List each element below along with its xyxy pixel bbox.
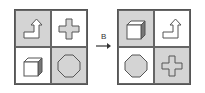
octagon-icon bbox=[123, 53, 149, 79]
source-grid bbox=[14, 9, 88, 85]
right-arrow-icon bbox=[94, 34, 114, 54]
result-cell-bottom-left bbox=[118, 47, 154, 84]
cube-icon bbox=[123, 16, 149, 42]
result-cell-bottom-right bbox=[154, 47, 190, 84]
source-cell-top-left bbox=[15, 10, 51, 47]
cube-icon bbox=[20, 53, 46, 79]
source-cell-top-right bbox=[51, 10, 87, 47]
result-grid bbox=[117, 9, 191, 85]
result-cell-top-right bbox=[154, 10, 190, 47]
source-cell-bottom-right bbox=[51, 47, 87, 84]
result-cell-top-left bbox=[118, 10, 154, 47]
bent-arrow-icon bbox=[159, 16, 185, 42]
cross-icon bbox=[56, 16, 82, 42]
octagon-icon bbox=[56, 53, 82, 79]
cross-icon bbox=[159, 53, 185, 79]
bent-arrow-icon bbox=[20, 16, 46, 42]
source-cell-bottom-left bbox=[15, 47, 51, 84]
